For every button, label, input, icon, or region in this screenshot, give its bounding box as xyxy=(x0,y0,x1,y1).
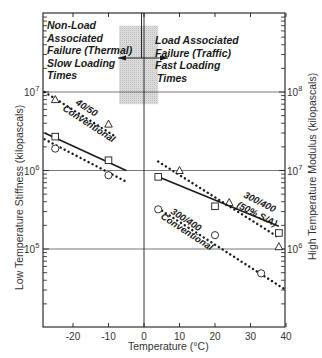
y-right-tick-label: 106 xyxy=(287,241,302,255)
triangle-marker xyxy=(176,167,184,174)
square-marker xyxy=(276,230,283,237)
square-marker xyxy=(52,133,59,140)
circle-marker xyxy=(52,145,59,152)
exponent: 7 xyxy=(35,84,39,93)
exponent: 5 xyxy=(35,241,39,250)
annotation-line: Failure (Thermal) xyxy=(47,44,132,57)
circle-marker xyxy=(105,172,112,179)
exponent: 6 xyxy=(298,241,302,250)
annotation-traffic-failure: Load Associated Failure (Traffic) Fast L… xyxy=(155,34,239,84)
triangle-marker xyxy=(275,243,283,250)
x-tick-label: -20 xyxy=(66,331,81,342)
annotation-line: Times xyxy=(47,69,132,82)
y-axis-right-label: High Temperature Modulus (kilopascals) xyxy=(306,73,318,260)
square-marker xyxy=(212,203,219,210)
x-tick-label: 30 xyxy=(245,331,257,342)
x-tick-label: -10 xyxy=(101,331,116,342)
annotation-line: Load Associated xyxy=(155,34,239,47)
annotation-line: Failure (Traffic) xyxy=(155,47,239,60)
series-labels: 40/50Conventional300/400(50% S/A)300/400… xyxy=(61,96,279,253)
y-left-tick-label: 107 xyxy=(24,84,39,98)
x-axis-label: Temperature (°C) xyxy=(128,340,209,352)
circle-marker xyxy=(155,206,162,213)
triangle-marker xyxy=(105,120,113,127)
annotation-line: Non-Load xyxy=(47,19,132,32)
square-marker xyxy=(105,157,112,164)
exponent: 6 xyxy=(35,163,39,172)
circle-marker xyxy=(211,232,218,239)
x-tick-label: 40 xyxy=(280,331,292,342)
square-marker xyxy=(155,174,162,181)
y-right-tick-label: 108 xyxy=(287,84,302,98)
annotation-line: Fast Loading xyxy=(155,59,239,72)
exponent: 8 xyxy=(298,84,302,93)
y-right-tick-label: 107 xyxy=(287,163,302,177)
y-left-tick-label: 106 xyxy=(24,163,39,177)
exponent: 7 xyxy=(298,163,302,172)
y-left-tick-label: 105 xyxy=(24,241,39,255)
y-axis-left-label: Low Temperature Stiffness (kilopascals) xyxy=(13,105,25,290)
circle-marker xyxy=(258,270,265,277)
annotation-line: Associated xyxy=(47,32,132,45)
x-tick-label: 20 xyxy=(209,331,221,342)
annotation-line: Slow Loading xyxy=(47,57,132,70)
annotation-line: Times xyxy=(155,72,239,85)
annotation-thermal-failure: Non-Load Associated Failure (Thermal) Sl… xyxy=(47,19,132,82)
